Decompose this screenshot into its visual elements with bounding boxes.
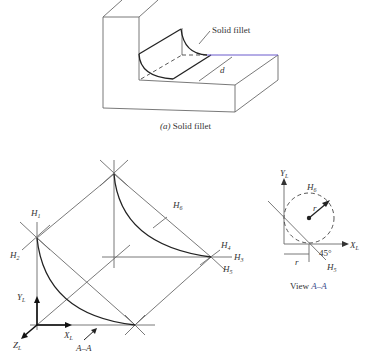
- label-h1: H1: [30, 208, 41, 219]
- caption-a: (a) Solid fillet: [160, 121, 211, 131]
- dimension-d-label: d: [220, 65, 225, 75]
- fillet-diagram: Solid fillet d (a) Solid fillet: [0, 0, 375, 364]
- fillet-construction: [20, 160, 232, 340]
- axis-label-x: XL: [63, 330, 74, 341]
- view-aa-y-label: YL: [280, 168, 289, 179]
- view-aa-h6-label: H6: [306, 182, 317, 193]
- solid-fillet-block: [103, 0, 278, 112]
- label-h5: H5: [222, 264, 233, 275]
- axis-label-y: YL: [17, 292, 26, 303]
- label-h3: H3: [233, 252, 244, 263]
- label-h6: H6: [172, 200, 183, 211]
- view-aa-x-label: XL: [349, 240, 360, 251]
- label-h2: H2: [9, 250, 20, 261]
- axis-label-z: ZL: [13, 340, 22, 351]
- view-aa-h5-label: H5: [326, 262, 337, 273]
- angle-label: 45°: [319, 248, 332, 258]
- view-arrow-label: A–A: [75, 343, 92, 353]
- solid-fillet-callout: Solid fillet: [212, 25, 251, 35]
- view-aa-caption: View A–A: [290, 281, 327, 291]
- label-h4: H4: [220, 240, 231, 251]
- radius-label: r: [313, 203, 317, 213]
- offset-r-label: r: [295, 257, 299, 267]
